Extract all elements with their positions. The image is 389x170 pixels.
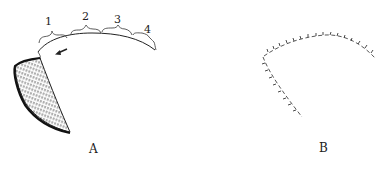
figure-canvas xyxy=(0,0,389,170)
panel-a xyxy=(14,25,156,133)
segment-label-2: 2 xyxy=(82,11,89,23)
segment-label-3: 3 xyxy=(114,14,121,26)
arc-line xyxy=(38,33,155,52)
panel-label-b: B xyxy=(319,142,328,154)
line-ticks xyxy=(262,63,296,111)
brace-1 xyxy=(39,31,67,43)
segment-label-4: 4 xyxy=(144,24,151,36)
direction-arrow-icon xyxy=(55,49,67,55)
ticked-descending-line xyxy=(263,57,302,117)
ticked-arc xyxy=(264,35,375,58)
segment-label-1: 1 xyxy=(45,16,52,28)
panel-b xyxy=(262,32,375,117)
panel-label-a: A xyxy=(89,143,98,155)
